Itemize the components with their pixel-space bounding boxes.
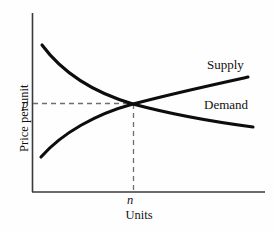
supply-curve xyxy=(41,77,248,157)
supply-demand-figure: Supply Demand Price per unit Units p n xyxy=(0,0,274,232)
equilibrium-price-label: p xyxy=(22,98,28,111)
plot-canvas xyxy=(0,0,274,232)
equilibrium-quantity-label: n xyxy=(127,194,133,207)
y-axis-title: Price per unit xyxy=(18,70,31,166)
demand-curve-label: Demand xyxy=(204,98,248,111)
supply-curve-label: Supply xyxy=(207,58,244,71)
equilibrium-guides xyxy=(33,104,134,192)
x-axis-title: Units xyxy=(107,209,171,222)
